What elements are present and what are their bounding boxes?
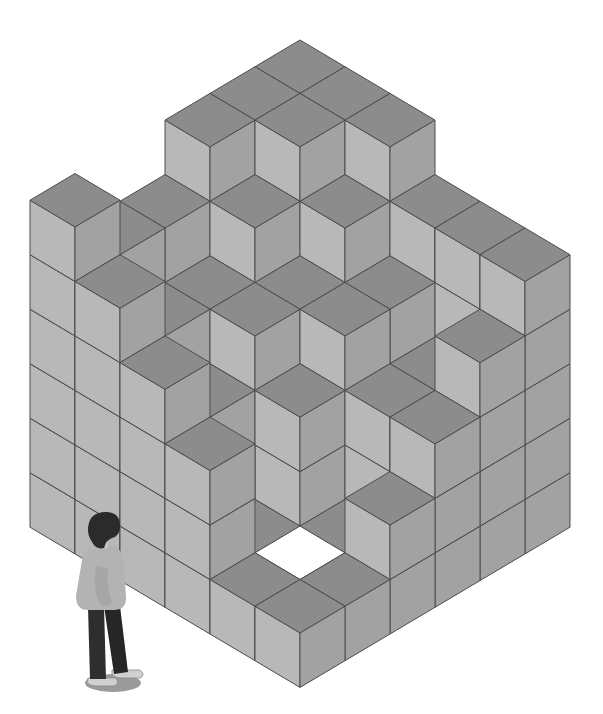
person-right-leg — [104, 606, 128, 674]
person-left-shoe — [87, 678, 117, 686]
isometric-cube-illustration — [0, 0, 603, 714]
person-left-leg — [88, 607, 106, 679]
